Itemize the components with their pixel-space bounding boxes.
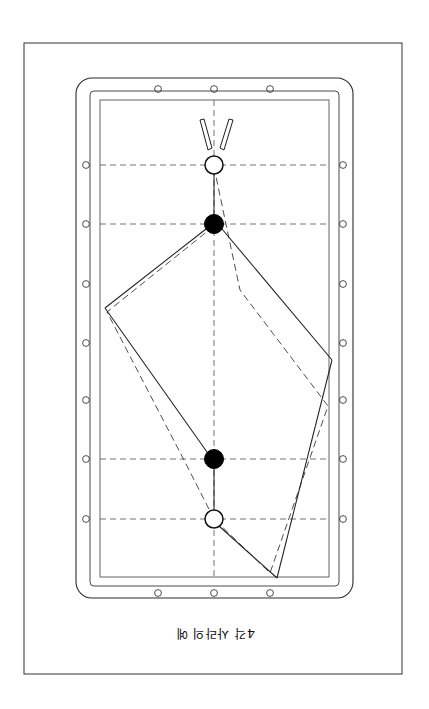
object-ball-top [205,215,224,234]
diamond-hole-icon [340,162,347,169]
diamond-hole-icon [340,397,347,404]
cue-ball-top [205,156,223,174]
cue-ball-bottom [205,510,223,528]
billiards-diagram-svg [0,0,429,709]
diamond-hole-icon [340,340,347,347]
diamond-hole-icon [340,281,347,288]
diamond-hole-icon [83,456,90,463]
diamond-hole-icon [340,456,347,463]
diamond-hole-icon [83,162,90,169]
diamond-hole-icon [211,590,218,597]
diamond-hole-icon [340,516,347,523]
diamond-hole-icon [267,590,274,597]
diamond-hole-icon [83,221,90,228]
diamond-hole-icon [155,590,162,597]
figure-page: 4각 사라의 예 [0,0,429,709]
diamond-hole-icon [340,221,347,228]
diamond-hole-icon [83,397,90,404]
diamond-hole-icon [83,340,90,347]
object-ball-bottom [205,450,224,469]
diamond-hole-icon [83,516,90,523]
diamond-hole-icon [83,281,90,288]
